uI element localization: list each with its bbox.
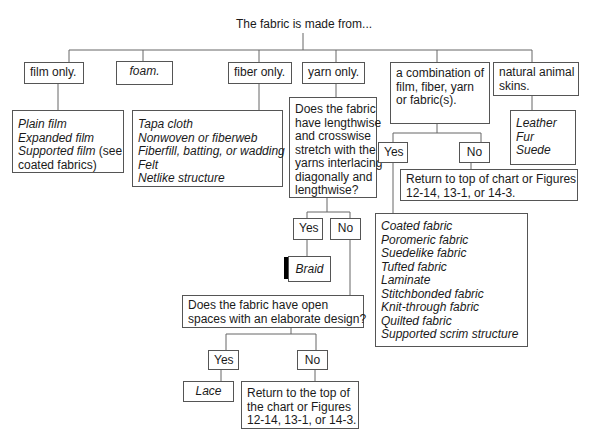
fiber-items-box: Tapa cloth Nonwoven or fiberweb Fiberfil… — [132, 110, 283, 187]
film-item: Plain film — [18, 118, 118, 132]
node-natural-skins: natural animal skins. — [493, 62, 579, 96]
node-lace-label: Lace — [195, 384, 221, 398]
yarn-yes-label: Yes — [299, 221, 319, 235]
node-skins-line2: skins. — [499, 80, 573, 94]
yarn-question-line: diagonally and — [295, 171, 371, 185]
combo-no-label: No — [467, 145, 482, 159]
yarn-question-box: Does the fabric have lengthwise and cros… — [289, 97, 377, 198]
combo-items-box: Coated fabric Poromeric fabric Suedelike… — [375, 213, 528, 347]
combo-item: Tufted fabric — [381, 261, 522, 275]
open-no-result-line: Return to the top of — [247, 387, 353, 401]
combo-item: Quilted fabric — [381, 315, 522, 329]
yarn-no: No — [330, 218, 361, 240]
node-foam: foam. — [116, 61, 173, 85]
combo-no: No — [459, 142, 490, 163]
yarn-question-line: lengthwise? — [295, 184, 371, 198]
yarn-question-line: and crosswise — [295, 130, 371, 144]
node-yarn-only: yarn only. — [302, 62, 365, 84]
node-braid: Braid — [288, 256, 331, 282]
open-question-line: Does the fabric have open — [188, 299, 358, 313]
combo-no-result-line: 12-14, 13-1, or 14-3. — [406, 187, 572, 201]
film-item-note: (see — [95, 144, 122, 158]
yarn-question-line: yarns interlacing — [295, 157, 371, 171]
node-fiber-only: fiber only. — [228, 62, 292, 84]
fiber-item: Nonwoven or fiberweb — [138, 132, 277, 146]
combo-no-result-line: Return to top of chart or Figures — [406, 173, 572, 187]
yarn-question-line: stretch with the — [295, 144, 371, 158]
node-foam-label: foam. — [129, 64, 159, 78]
node-yarn-only-label: yarn only. — [308, 65, 359, 79]
combo-yes-label: Yes — [384, 145, 404, 159]
yarn-yes: Yes — [293, 218, 323, 240]
node-combination-line1: a combination of — [396, 67, 484, 81]
film-item-note-line2: coated fabrics) — [18, 159, 118, 173]
node-film-only: film only. — [24, 62, 84, 84]
combo-item: Stitchbonded fabric — [381, 288, 522, 302]
open-no-result: Return to the top of the chart or Figure… — [241, 381, 359, 429]
node-skins-line1: natural animal — [499, 66, 573, 80]
node-lace: Lace — [183, 381, 234, 402]
skins-item: Leather — [516, 117, 570, 131]
chart-title: The fabric is made from... — [236, 17, 372, 31]
node-fiber-only-label: fiber only. — [234, 65, 285, 79]
node-combination-line2: film, fiber, yarn — [396, 81, 484, 95]
node-combination-line3: or fabric(s). — [396, 94, 484, 108]
yarn-no-label: No — [338, 221, 353, 235]
yarn-question-line: Does the fabric — [295, 103, 371, 117]
fiber-item: Tapa cloth — [138, 118, 277, 132]
combo-item: Poromeric fabric — [381, 234, 522, 248]
film-items-box: Plain film Expanded film Supported film … — [12, 110, 124, 173]
film-item-supported: Supported film — [18, 144, 95, 158]
combo-item: Knit-through fabric — [381, 301, 522, 315]
node-combination: a combination of film, fiber, yarn or fa… — [390, 62, 490, 124]
skins-item: Fur — [516, 131, 570, 145]
yarn-question-line: have lengthwise — [295, 117, 371, 131]
skins-item: Suede — [516, 144, 570, 158]
combo-item: Suedelike fabric — [381, 247, 522, 261]
fiber-item: Netlike structure — [138, 172, 277, 186]
combo-item: Laminate — [381, 274, 522, 288]
combo-item: Supported scrim structure — [381, 328, 522, 342]
open-no-label: No — [305, 353, 320, 367]
node-film-only-label: film only. — [30, 65, 76, 79]
open-no-result-line: 12-14, 13-1, or 14-3. — [247, 414, 353, 428]
open-question-line: spaces with an elaborate design? — [188, 313, 358, 327]
combo-yes: Yes — [378, 142, 408, 163]
open-yes-label: Yes — [214, 353, 234, 367]
open-yes: Yes — [208, 350, 239, 370]
combo-item: Coated fabric — [381, 220, 522, 234]
fiber-item: Felt — [138, 159, 277, 173]
node-braid-label: Braid — [295, 262, 323, 276]
skins-items-box: Leather Fur Suede — [510, 110, 576, 165]
open-question-box: Does the fabric have open spaces with an… — [182, 295, 364, 328]
fiber-item: Fiberfill, batting, or wadding — [138, 145, 277, 159]
open-no: No — [297, 350, 328, 370]
film-item: Expanded film — [18, 132, 118, 146]
combo-no-result: Return to top of chart or Figures 12-14,… — [400, 169, 578, 201]
open-no-result-line: the chart or Figures — [247, 401, 353, 415]
